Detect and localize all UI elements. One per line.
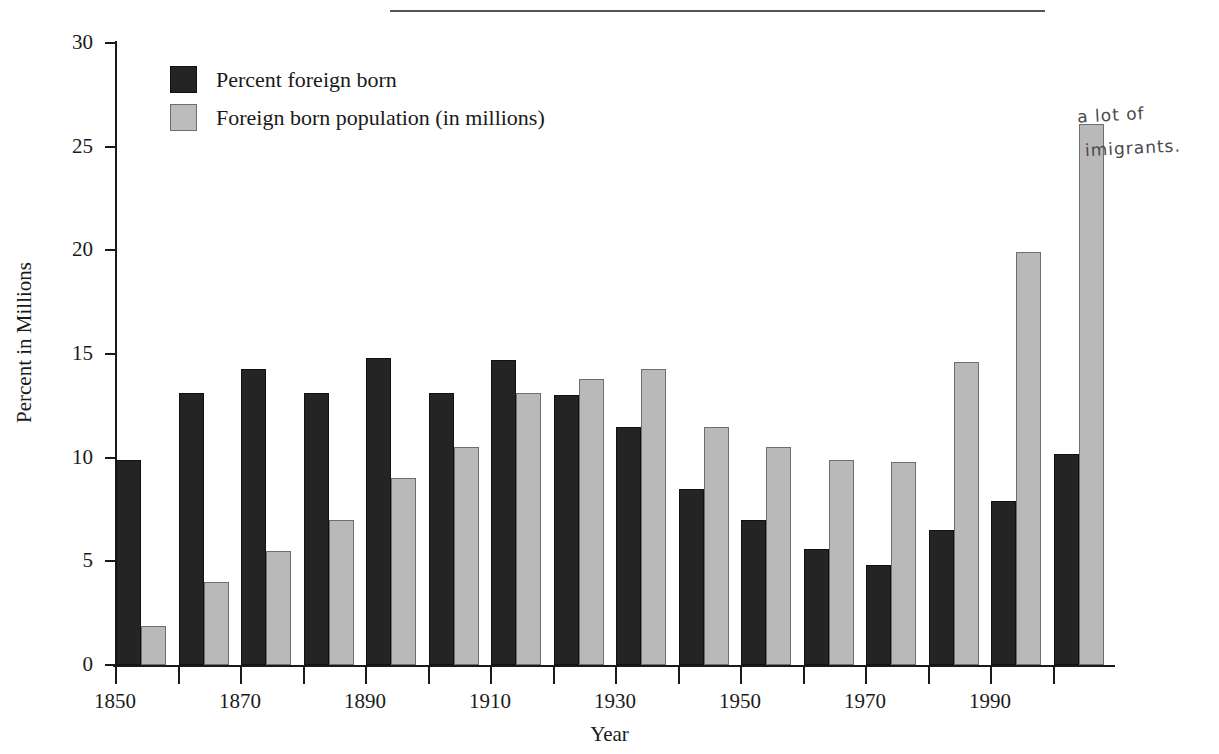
bar-2000-dark [1054, 454, 1079, 665]
y-tick-10 [105, 457, 115, 459]
x-tick-1860 [178, 667, 180, 684]
bar-1940-dark [679, 489, 704, 665]
bar-1870-dark [241, 369, 266, 665]
x-tick-label-1990: 1990 [950, 690, 1030, 713]
bar-1860-dark [179, 393, 204, 665]
x-tick-label-1950: 1950 [700, 690, 780, 713]
x-tick-1910 [490, 667, 492, 684]
x-tick-1930 [615, 667, 617, 684]
bar-1900-light [454, 447, 479, 665]
annotation-line-1: a lot of [1077, 103, 1145, 127]
bar-1880-light [329, 520, 354, 665]
bar-1990-light [1016, 252, 1041, 665]
x-tick-1890 [365, 667, 367, 684]
x-tick-label-1890: 1890 [325, 690, 405, 713]
x-tick-1850 [115, 667, 117, 684]
legend-item-foreign-born-population: Foreign born population (in millions) [170, 104, 545, 131]
handwritten-annotation: a lot of imigrants. [1076, 92, 1219, 167]
x-tick-1980 [928, 667, 930, 684]
chart-figure: 051015202530 185018701890191019301950197… [0, 0, 1219, 754]
y-tick-25 [105, 146, 115, 148]
bar-1890-dark [366, 358, 391, 665]
bar-1870-light [266, 551, 291, 665]
x-tick-label-1850: 1850 [75, 690, 155, 713]
bar-1980-dark [929, 530, 954, 665]
x-tick-1950 [740, 667, 742, 684]
bar-1950-light [766, 447, 791, 665]
y-axis-title: Percent in Millions [12, 173, 37, 513]
bar-1930-dark [616, 427, 641, 665]
bar-1860-light [204, 582, 229, 665]
legend-item-percent-foreign-born: Percent foreign born [170, 66, 545, 93]
bar-1970-dark [866, 565, 891, 665]
x-tick-1940 [678, 667, 680, 684]
y-tick-label-10: 10 [47, 447, 93, 468]
bar-1880-dark [304, 393, 329, 665]
bar-1960-dark [804, 549, 829, 665]
y-tick-label-20: 20 [47, 239, 93, 260]
x-tick-1880 [303, 667, 305, 684]
y-tick-0 [105, 664, 115, 666]
legend-swatch-dark [170, 66, 197, 93]
bar-1980-light [954, 362, 979, 665]
x-tick-2000 [1053, 667, 1055, 684]
bar-1920-light [579, 379, 604, 665]
y-tick-label-0: 0 [47, 654, 93, 675]
bar-1950-dark [741, 520, 766, 665]
bar-1930-light [641, 369, 666, 665]
x-tick-1870 [240, 667, 242, 684]
y-tick-label-30: 30 [47, 32, 93, 53]
bar-1960-light [829, 460, 854, 665]
x-tick-label-1910: 1910 [450, 690, 530, 713]
y-tick-20 [105, 249, 115, 251]
x-tick-1970 [865, 667, 867, 684]
bar-2000-light [1079, 124, 1104, 665]
y-tick-label-15: 15 [47, 343, 93, 364]
x-tick-label-1970: 1970 [825, 690, 905, 713]
bar-1970-light [891, 462, 916, 665]
x-tick-1990 [990, 667, 992, 684]
bar-1850-light [141, 626, 166, 665]
bar-1910-dark [491, 360, 516, 665]
legend-swatch-light [170, 104, 197, 131]
legend-label-foreign-born-population: Foreign born population (in millions) [216, 106, 545, 130]
x-axis-line [113, 665, 1115, 667]
chart-legend: Percent foreign born Foreign born popula… [170, 66, 545, 142]
bar-1920-dark [554, 395, 579, 665]
annotation-line-2: imigrants. [1084, 126, 1219, 167]
x-tick-1920 [553, 667, 555, 684]
bar-1900-dark [429, 393, 454, 665]
x-tick-1900 [428, 667, 430, 684]
x-tick-label-1870: 1870 [200, 690, 280, 713]
bar-1990-dark [991, 501, 1016, 665]
y-tick-15 [105, 353, 115, 355]
x-tick-1960 [803, 667, 805, 684]
top-rule-divider [390, 10, 1045, 12]
bar-1940-light [704, 427, 729, 665]
bar-1890-light [391, 478, 416, 665]
x-axis-title: Year [0, 722, 1219, 747]
x-tick-label-1930: 1930 [575, 690, 655, 713]
bar-1850-dark [116, 460, 141, 665]
y-tick-5 [105, 560, 115, 562]
y-tick-30 [105, 42, 115, 44]
y-tick-label-25: 25 [47, 136, 93, 157]
legend-label-percent-foreign-born: Percent foreign born [216, 68, 397, 92]
bar-1910-light [516, 393, 541, 665]
y-tick-label-5: 5 [47, 550, 93, 571]
